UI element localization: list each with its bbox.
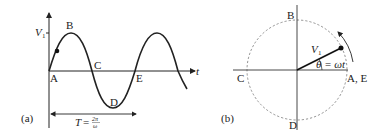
period-den: ω [93,123,97,129]
point-d: D [110,96,118,108]
point-c: C [94,59,101,71]
period-eq: = [83,116,89,128]
panel-b-phasor: B C D A, E V 1 θ = ωt (b) [221,5,367,131]
point-b: B [66,19,73,31]
point-a: A [50,72,58,84]
panel-a-waveform: V 1 B A C D E t T = 2π ω (a) [21,13,200,129]
phasor-sub: 1 [318,49,322,57]
phasor-tip [339,46,344,51]
angle-label: θ = ωt [316,58,346,70]
point-marker [55,49,60,54]
point-c-left: C [237,72,244,84]
period-t: T [75,116,82,128]
amplitude-sub: 1 [42,32,46,40]
phasor-diagram: V 1 B A C D E t T = 2π ω (a) B C D A, E … [0,0,388,137]
period-num: 2π [92,116,99,122]
point-d-bottom: D [289,119,297,131]
time-label: t [196,65,200,77]
point-ae-right: A, E [347,72,367,84]
panel-b-label: (b) [221,112,234,125]
point-e: E [136,72,143,84]
point-b-top: B [287,9,294,21]
panel-a-label: (a) [21,112,34,125]
